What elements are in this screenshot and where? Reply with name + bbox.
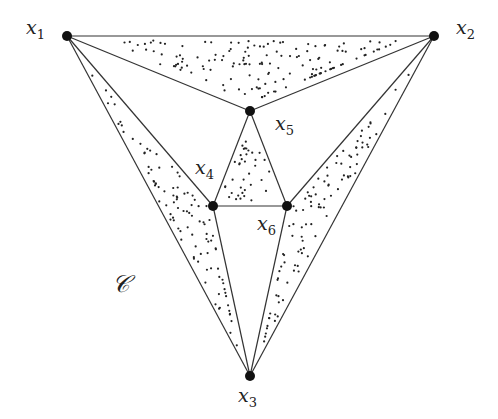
stipple-dot	[123, 41, 125, 43]
stipple-dot	[122, 131, 124, 133]
stipple-dot	[171, 166, 173, 168]
stipple-dot	[304, 79, 306, 81]
stipple-dot	[259, 63, 261, 65]
stipple-dot	[317, 178, 319, 180]
stipple-dot	[276, 279, 278, 281]
stipple-dot	[326, 166, 328, 168]
stipple-dot	[294, 264, 296, 266]
stipple-dot	[320, 72, 322, 74]
stipple-dot	[229, 332, 231, 334]
stipple-dot	[245, 153, 247, 155]
stipple-dot	[148, 166, 150, 168]
stipple-dot	[243, 195, 245, 197]
stipple-dot	[274, 81, 276, 83]
stipple-dot	[312, 68, 314, 70]
stipple-dot	[153, 50, 155, 52]
stipple-dot	[407, 74, 409, 76]
stipple-dot	[360, 135, 362, 137]
stipple-dot	[389, 44, 391, 46]
stipple-dot	[282, 41, 284, 43]
stipple-dot	[144, 43, 146, 45]
stipple-dot	[244, 93, 246, 95]
stipple-dot	[307, 191, 309, 193]
stipple-dot	[206, 269, 208, 271]
stipple-dot	[251, 88, 253, 90]
stipple-dot	[172, 217, 174, 219]
stipple-dot	[207, 240, 209, 242]
stipple-dot	[187, 192, 189, 194]
stipple-dot	[277, 295, 279, 297]
stipple-dot	[384, 113, 386, 115]
stipple-dot	[199, 220, 201, 222]
vertex-x4	[208, 201, 218, 211]
stipple-dot	[285, 86, 287, 88]
stipple-dot	[241, 192, 243, 194]
stipple-dot	[158, 200, 160, 202]
stipple-dot	[177, 186, 179, 188]
stipple-dot	[250, 199, 252, 201]
stipple-dot	[155, 182, 157, 184]
stipple-dot	[210, 239, 212, 241]
stipple-dot	[230, 42, 232, 44]
stipple-dot	[349, 166, 351, 168]
stipple-dot	[218, 308, 220, 310]
stipple-dot	[292, 205, 294, 207]
stipple-dot	[129, 41, 131, 43]
stipple-dot	[369, 40, 371, 42]
stipple-dot	[169, 213, 171, 215]
stipple-dot	[203, 68, 205, 70]
stipple-dot	[274, 91, 276, 93]
stipple-dot	[238, 88, 240, 90]
stipple-dot	[258, 152, 260, 154]
stipple-dot	[195, 245, 197, 247]
stipple-dot	[173, 201, 175, 203]
stipple-dot	[182, 58, 184, 60]
stipple-dot	[242, 59, 244, 61]
stipple-dot	[341, 178, 343, 180]
stipple-dot	[181, 45, 183, 47]
stipple-dot	[222, 55, 224, 57]
stipple-dot	[375, 133, 377, 135]
stipple-dot	[236, 344, 238, 346]
stipple-dot	[304, 198, 306, 200]
edges	[67, 36, 434, 376]
stipple-dot	[229, 313, 231, 315]
stipple-dot	[320, 206, 322, 208]
stipple-dot	[240, 187, 242, 189]
stipple-dot	[159, 42, 161, 44]
stipple-dot	[275, 294, 277, 296]
stipple-dot	[342, 150, 344, 152]
stipple-dot	[248, 173, 250, 175]
stipple-dot	[301, 236, 303, 238]
stipple-dot	[340, 163, 342, 165]
edge-x2-x5	[250, 36, 434, 111]
stipple-dot	[277, 315, 279, 317]
stipple-dot	[191, 194, 193, 196]
stipple-dot	[161, 53, 163, 55]
stipple-dot	[307, 43, 309, 45]
stipple-dot	[335, 162, 337, 164]
stipple-dot	[363, 54, 365, 56]
stipple-dot	[260, 179, 262, 181]
stipple-dot	[110, 96, 112, 98]
stipple-dot	[259, 87, 261, 89]
stipple-dot	[230, 78, 232, 80]
stipple-dot	[182, 210, 184, 212]
stipple-dot	[292, 223, 294, 225]
stipple-dot	[223, 89, 225, 91]
stipple-dot	[150, 41, 152, 43]
stipple-dot	[394, 89, 396, 91]
stipple-dot	[345, 51, 347, 53]
stipple-dot	[366, 143, 368, 145]
stipple-dot	[243, 57, 245, 59]
stipple-dot	[237, 194, 239, 196]
vertex-label-x2: x2	[456, 16, 475, 42]
stipple-dot	[264, 336, 266, 338]
stipple-dot	[306, 50, 308, 52]
stipple-dot	[206, 233, 208, 235]
stipple-dot	[197, 261, 199, 263]
stipple-dot	[280, 266, 282, 268]
stipple-dot	[367, 146, 369, 148]
stipple-dot	[215, 248, 217, 250]
stipple-dot	[373, 50, 375, 52]
